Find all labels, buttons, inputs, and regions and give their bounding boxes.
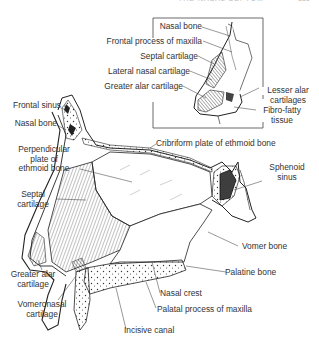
label-frontal-sinus: Frontal sinus <box>0 101 61 111</box>
label-line: cartilage <box>26 309 58 319</box>
label-line: Greater alar <box>11 269 56 279</box>
label-line: Septal <box>21 189 45 199</box>
inset-nose-drawing <box>194 22 252 124</box>
main-septum-drawing <box>22 95 256 330</box>
label-nasal-bone: Nasal bone <box>0 119 57 129</box>
label-perpendicular-plate: Perpendicular plate of ethmoid bone <box>8 145 80 174</box>
label-line: cartilages <box>270 95 306 105</box>
label-cribriform-plate: Cribriform plate of ethmoid bone <box>156 139 276 149</box>
label-line: Perpendicular <box>18 144 70 154</box>
label-palatine-bone: Palatine bone <box>225 268 276 278</box>
label-line: tissue <box>271 115 293 125</box>
label-inset-nasal-bone: Nasal bone <box>152 22 202 32</box>
label-inset-greater-alar: Greater alar cartilage <box>86 82 183 92</box>
label-vomer-bone: Vomer bone <box>242 242 287 252</box>
label-inset-fibro-fatty: Fibro-fatty tissue <box>256 106 308 125</box>
label-vomeronasal-cartilage: Vomeronasal cartilage <box>14 300 70 319</box>
label-line: Lesser alar <box>267 85 308 95</box>
label-line: ethmoid bone <box>19 163 70 173</box>
label-incisive-canal: Incisive canal <box>124 326 174 336</box>
label-line: Sphenoid <box>269 162 304 172</box>
label-inset-lateral-nasal: Lateral nasal cartilage <box>88 67 190 77</box>
label-sphenoid-sinus: Sphenoid sinus <box>262 163 312 182</box>
label-inset-lesser-alar: Lesser alar cartilages <box>258 86 318 105</box>
label-septal-cartilage: Septal cartilage <box>10 190 56 209</box>
label-line: sinus <box>277 172 297 182</box>
label-line: Fibro-fatty <box>263 105 301 115</box>
label-palatal-process: Palatal process of maxilla <box>157 305 252 315</box>
label-line: cartilage <box>17 199 49 209</box>
label-line: plate of <box>30 154 57 164</box>
label-line: cartilage <box>17 279 49 289</box>
label-inset-septal-cartilage: Septal cartilage <box>120 52 198 62</box>
label-greater-alar-cartilage: Greater alar cartilage <box>8 270 58 289</box>
label-line: Vomeronasal <box>18 299 67 309</box>
label-nasal-crest: Nasal crest <box>160 289 202 299</box>
label-inset-frontal-process: Frontal process of maxilla <box>92 37 202 47</box>
